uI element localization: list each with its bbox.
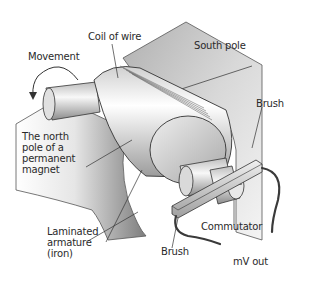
label-movement: Movement: [28, 51, 79, 62]
label-commutator: Commutator: [201, 221, 262, 232]
label-south-pole: South pole: [194, 40, 246, 51]
label-north-pole: The north pole of a permanent magnet: [22, 131, 75, 175]
label-mv-out: mV out: [233, 256, 268, 267]
label-laminated-armature: Laminated armature (iron): [47, 226, 98, 259]
label-brush-top: Brush: [256, 98, 284, 109]
label-coil-of-wire: Coil of wire: [88, 31, 141, 42]
label-brush-bottom: Brush: [161, 246, 189, 257]
